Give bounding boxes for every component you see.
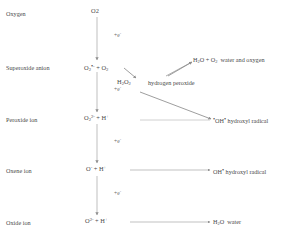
oxene-extra: + H — [94, 165, 104, 172]
oxide-charge: 2- — [90, 217, 94, 222]
row-label-oxide-ion: Oxide ion — [6, 220, 31, 226]
intermediate-hydrogen-peroxide-name: hydrogen peroxide — [148, 80, 195, 86]
water-o: O — [220, 218, 224, 225]
peroxide-extra-sup: + — [106, 114, 109, 119]
arrow-peroxide-to-water-oxygen — [168, 62, 192, 76]
species-oxygen: O2 — [91, 8, 99, 14]
product-hydroxyl-radical-peroxide: •OH• hydroxyl radical — [213, 117, 268, 124]
electron-label-3-charge: - — [120, 137, 121, 142]
row-label-oxygen: Oxygen — [6, 11, 26, 17]
superoxide-extra-sub: 2 — [106, 67, 108, 72]
superoxide-extra: + O — [96, 64, 106, 71]
species-oxygen-sub: 2 — [96, 7, 99, 14]
species-oxene-ion: O- + H+ — [86, 166, 106, 172]
peroxide-extra: + H — [96, 114, 106, 121]
water-oxygen-name: water and oxygen — [221, 56, 265, 63]
electron-label-1: +e- — [114, 32, 121, 38]
product-hydroxyl-radical-oxene: OH• hydroxyl radical — [213, 168, 266, 175]
species-superoxide-anion: O2•- + O2 — [84, 63, 108, 72]
row-label-peroxide-ion: Peroxide ion — [6, 117, 37, 123]
product-water-and-oxygen: H2O + O2 water and oxygen — [193, 57, 265, 64]
electron-label-2: +e- — [114, 86, 121, 92]
arrow-peroxide-to-hydroxyl — [140, 92, 211, 119]
row-label-oxene-ion: Oxene ion — [6, 168, 32, 174]
hydroxyl-2-name: hydroxyl radical — [226, 168, 267, 175]
species-peroxide-ion: O22- + H+ — [84, 115, 109, 123]
oxygen-reduction-diagram: Oxygen Superoxide anion Peroxide ion Oxe… — [0, 0, 284, 240]
electron-label-4-charge: - — [120, 189, 121, 194]
species-oxide-ion: O2- + H+ — [85, 218, 107, 224]
arrow-superoxide-to-peroxide — [124, 68, 136, 78]
hydroxyl-1-name: hydroxyl radical — [228, 117, 269, 124]
product-water: H2O water — [213, 219, 241, 226]
h2o2-sub2: 2 — [129, 81, 131, 86]
water-oxygen-o2-sub: 2 — [215, 59, 217, 64]
oxide-extra-sup: + — [105, 217, 108, 222]
hydroxyl-2-dot: • — [222, 167, 224, 173]
electron-label-1-charge: - — [120, 31, 121, 36]
peroxide-charge: 2- — [91, 114, 95, 119]
intermediate-hydrogen-peroxide-formula: H2O2 — [117, 79, 131, 87]
electron-label-4: +e- — [114, 190, 121, 196]
arrow-superoxide-to-water-oxygen — [166, 63, 190, 76]
row-label-superoxide-anion: Superoxide anion — [6, 65, 49, 71]
superoxide-charge: - — [93, 64, 95, 69]
water-oxygen-rest: O + O — [200, 56, 216, 63]
oxene-charge: - — [91, 165, 93, 170]
electron-label-3: +e- — [114, 138, 121, 144]
hydroxyl-2-formula: OH — [213, 168, 222, 175]
oxene-extra-sup: + — [104, 165, 107, 170]
oxide-extra: + H — [95, 217, 105, 224]
water-name: water — [227, 218, 241, 225]
hydroxyl-1-formula: OH — [215, 117, 224, 124]
hydroxyl-1-dot: • — [224, 116, 226, 122]
